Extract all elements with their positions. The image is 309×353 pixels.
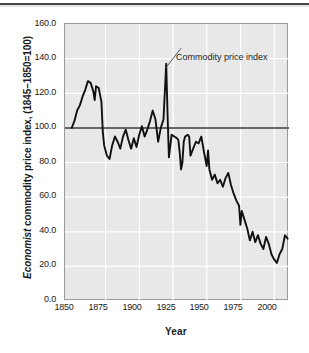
x-tick-label: 1850 — [47, 303, 81, 312]
x-tick-label: 1950 — [182, 303, 216, 312]
x-tick-label: 1875 — [81, 303, 115, 312]
x-tick-label: 1975 — [216, 303, 250, 312]
plot-area — [64, 23, 288, 300]
annotation-label: Commodity price index — [176, 52, 268, 62]
gridlines — [65, 24, 289, 301]
x-tick-label: 1925 — [149, 303, 183, 312]
chart-canvas — [65, 24, 289, 301]
x-tick-label: 2000 — [250, 303, 284, 312]
x-tick-label: 1900 — [115, 303, 149, 312]
y-axis-title-rest: commodity price index, (1845–1850=100) — [22, 36, 33, 229]
x-axis-title: Year — [64, 326, 288, 337]
commodity-price-index-chart: 160.0 140.0 120.0 100.0 80.0 60.0 40.0 2… — [0, 0, 309, 353]
y-axis-title-italic: Economist — [22, 229, 33, 279]
y-axis-title: Economist commodity price index, (1845–1… — [22, 18, 33, 298]
